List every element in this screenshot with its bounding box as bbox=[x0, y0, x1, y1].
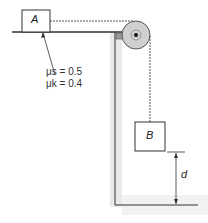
wall-shading bbox=[110, 32, 122, 207]
leader-arrow-icon bbox=[41, 32, 45, 38]
arrow-up-icon bbox=[174, 153, 178, 158]
static-friction-coefficient: μs = 0.5 bbox=[46, 66, 82, 77]
block-a-label: A bbox=[31, 13, 38, 25]
kinetic-friction-coefficient: μk = 0.4 bbox=[46, 78, 82, 89]
pulley-diagram bbox=[0, 0, 208, 223]
dimension-label: d bbox=[181, 168, 187, 180]
block-b-label: B bbox=[146, 129, 153, 141]
pulley-center bbox=[134, 33, 138, 37]
